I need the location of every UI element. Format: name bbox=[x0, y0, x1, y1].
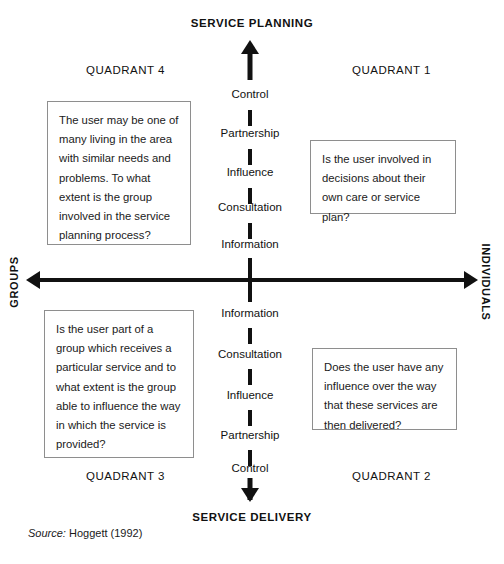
axis-dash bbox=[248, 149, 252, 165]
arrow-down-icon bbox=[241, 488, 259, 502]
ladder-rung-influence-upper: Influence bbox=[227, 166, 274, 178]
quadrant-1-question-box: Is the user involved in decisions about … bbox=[310, 140, 456, 214]
ladder-rung-control-upper: Control bbox=[231, 88, 268, 100]
ladder-rung-control-lower: Control bbox=[231, 462, 268, 474]
ladder-rung-consultation-upper: Consultation bbox=[218, 201, 282, 213]
quadrant-4-question-box: The user may be one of many living in th… bbox=[47, 101, 191, 245]
quadrant-3-heading: QUADRANT 3 bbox=[86, 470, 165, 482]
horizontal-axis-shaft bbox=[36, 278, 468, 282]
diagram-canvas: SERVICE PLANNING QUADRANT 4 QUADRANT 1 C… bbox=[0, 0, 504, 564]
quadrant-3-question-text: Is the user part of a group which receiv… bbox=[56, 320, 183, 454]
quadrant-4-question-text: The user may be one of many living in th… bbox=[59, 111, 180, 245]
axis-dash bbox=[248, 369, 252, 385]
axis-dash bbox=[248, 282, 252, 302]
axis-dash bbox=[248, 410, 252, 426]
ladder-rung-information-upper: Information bbox=[221, 238, 279, 250]
quadrant-2-heading: QUADRANT 2 bbox=[352, 470, 431, 482]
axis-dash bbox=[248, 328, 252, 344]
source-citation: Hoggett (1992) bbox=[69, 527, 142, 539]
axis-dash bbox=[248, 110, 252, 126]
ladder-rung-consultation-lower: Consultation bbox=[218, 348, 282, 360]
arrow-right-icon bbox=[464, 271, 478, 289]
quadrant-2-question-box: Does the user have any influence over th… bbox=[312, 348, 457, 430]
ladder-rung-influence-lower: Influence bbox=[227, 389, 274, 401]
ladder-rung-partnership-lower: Partnership bbox=[221, 429, 280, 441]
quadrant-4-heading: QUADRANT 4 bbox=[86, 64, 165, 76]
quadrant-3-question-box: Is the user part of a group which receiv… bbox=[44, 310, 194, 458]
quadrant-1-heading: QUADRANT 1 bbox=[352, 64, 431, 76]
quadrant-1-question-text: Is the user involved in decisions about … bbox=[322, 150, 445, 227]
source-note: Source: Hoggett (1992) bbox=[28, 527, 142, 539]
quadrant-2-question-text: Does the user have any influence over th… bbox=[324, 358, 446, 435]
ladder-rung-partnership-upper: Partnership bbox=[221, 127, 280, 139]
arrow-up-shaft bbox=[248, 50, 253, 80]
axis-dash bbox=[248, 258, 252, 278]
axis-label-service-planning: SERVICE PLANNING bbox=[0, 17, 504, 29]
axis-dash bbox=[248, 223, 252, 239]
axis-label-individuals: INDIVIDUALS bbox=[480, 227, 492, 337]
source-label: Source: bbox=[28, 527, 66, 539]
axis-label-groups: GROUPS bbox=[8, 242, 20, 322]
axis-label-service-delivery: SERVICE DELIVERY bbox=[0, 511, 504, 523]
ladder-rung-information-lower: Information bbox=[221, 307, 279, 319]
